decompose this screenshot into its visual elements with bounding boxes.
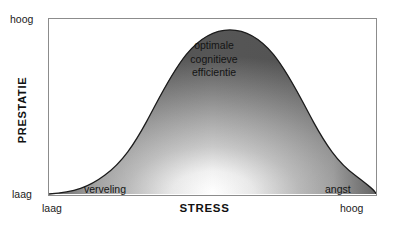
- plot-area: optimale cognitieve efficientie vervelin…: [48, 18, 377, 196]
- y-axis-title: PRESTATIE: [16, 65, 28, 155]
- annotation-optimal-line-1: optimale: [194, 39, 234, 51]
- annotation-boredom-zone: verveling: [84, 183, 126, 195]
- yerkes-dodson-chart: hoog laag PRESTATIE: [0, 0, 409, 227]
- annotation-anxiety-zone: angst: [325, 183, 351, 195]
- x-axis-title: STRESS: [0, 202, 409, 214]
- annotation-optimal-line-2: cognitieve: [190, 53, 237, 65]
- y-axis-tick-low: laag: [12, 189, 32, 200]
- y-axis-tick-high: hoog: [10, 14, 33, 25]
- annotation-optimal-zone: optimale cognitieve efficientie: [177, 39, 251, 80]
- annotation-optimal-line-3: efficientie: [192, 66, 236, 78]
